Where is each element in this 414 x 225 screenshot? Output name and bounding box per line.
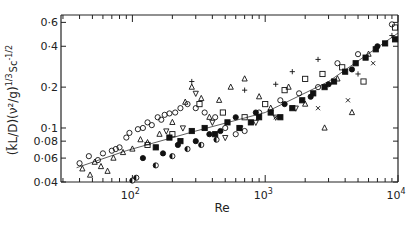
data-point <box>167 135 172 140</box>
data-point <box>371 61 375 65</box>
data-point <box>363 55 368 60</box>
data-point <box>296 91 301 96</box>
fit-line <box>77 33 398 168</box>
data-point <box>155 115 160 120</box>
data-point <box>248 120 253 125</box>
data-point <box>223 135 228 140</box>
data-point <box>300 98 305 103</box>
x-tick-label: 104 <box>386 187 405 202</box>
y-tick-label: 0·4 <box>41 40 59 53</box>
y-axis-title-exp2: -1/2 <box>5 45 14 61</box>
data-point <box>213 132 218 137</box>
data-point <box>253 110 258 115</box>
data-point <box>193 139 198 144</box>
y-axis-title-sc: Sc <box>8 61 19 73</box>
data-point <box>326 82 331 87</box>
data-point <box>225 120 230 125</box>
data-point <box>207 114 212 119</box>
data-point <box>322 125 327 130</box>
data-point <box>218 128 223 133</box>
y-tick-label: 0·6 <box>41 16 59 29</box>
data-point <box>220 110 225 115</box>
data-point <box>189 128 194 133</box>
data-point <box>290 106 295 111</box>
data-point <box>361 79 366 84</box>
data-point <box>175 142 180 147</box>
data-point <box>303 76 308 81</box>
data-point <box>392 37 397 42</box>
y-axis-title-main: (k̄L/D)(ν²/g) <box>6 86 20 155</box>
data-point <box>346 98 350 102</box>
data-point <box>355 52 360 57</box>
x-tick-label: 103 <box>254 187 273 202</box>
svg-text:(k̄L/D)(ν²/g)1/3Sc-1/2: (k̄L/D)(ν²/g)1/3Sc-1/2 <box>5 45 20 155</box>
data-point <box>278 115 283 120</box>
y-tick-label: 0·1 <box>41 122 59 135</box>
data-point <box>233 132 238 137</box>
data-point <box>320 71 325 76</box>
data-point <box>237 125 242 130</box>
data-point <box>100 151 105 156</box>
data-point <box>268 110 273 115</box>
data-point <box>138 137 143 142</box>
scatter-chart: 1021031040·040·060·080·10·20·40·6 Re (k̄… <box>0 0 414 225</box>
data-point <box>355 71 360 76</box>
data-point <box>233 115 238 120</box>
data-point <box>273 82 278 87</box>
data-point <box>316 106 320 110</box>
data-point <box>349 67 354 72</box>
data-point <box>173 110 178 115</box>
data-point <box>189 79 194 84</box>
data-point <box>86 154 91 159</box>
data-point <box>202 125 207 130</box>
data-point <box>180 126 185 131</box>
data-point <box>383 41 388 46</box>
x-tick-label: 102 <box>121 187 140 202</box>
data-point <box>290 69 295 74</box>
data-point <box>213 115 218 120</box>
data-point <box>375 44 380 49</box>
data-point <box>178 106 183 111</box>
data-point <box>202 110 207 115</box>
data-point <box>331 79 336 84</box>
data-point <box>242 128 247 133</box>
plot-frame <box>61 15 398 182</box>
data-point <box>149 123 154 128</box>
data-point <box>193 91 198 96</box>
y-tick-label: 0·04 <box>34 176 59 189</box>
data-point <box>127 130 132 135</box>
data-point <box>242 76 247 81</box>
data-point <box>392 25 397 30</box>
data-point <box>77 161 82 166</box>
data-point <box>308 94 313 99</box>
data-point <box>282 101 287 106</box>
data-points <box>77 22 398 183</box>
data-point <box>124 135 129 140</box>
data-point <box>189 84 194 89</box>
data-point <box>167 111 172 116</box>
y-tick-label: 0·2 <box>41 81 59 94</box>
data-point <box>160 151 165 156</box>
data-point <box>253 120 258 125</box>
y-axis-title: (k̄L/D)(ν²/g)1/3Sc-1/2 <box>5 45 20 155</box>
data-point <box>217 97 222 102</box>
y-axis-title-exp1: 1/3 <box>5 73 14 86</box>
data-point <box>153 145 158 150</box>
data-point <box>210 120 215 125</box>
data-point <box>389 22 394 27</box>
data-point <box>140 125 145 130</box>
y-tick-label: 0·08 <box>34 135 59 148</box>
x-axis-title: Re <box>214 201 229 215</box>
data-point <box>98 163 103 168</box>
data-point <box>135 127 140 132</box>
data-point <box>315 57 320 62</box>
data-point <box>170 119 175 124</box>
data-point <box>223 125 228 130</box>
data-point <box>140 156 145 161</box>
data-point <box>257 94 262 99</box>
data-point <box>228 84 233 89</box>
data-point <box>349 109 354 114</box>
data-point <box>159 117 164 122</box>
data-point <box>87 172 92 177</box>
data-point <box>343 69 348 74</box>
